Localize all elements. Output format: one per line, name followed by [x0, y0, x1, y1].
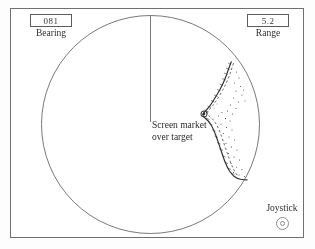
- marker-caption-line1: Screen market: [152, 120, 207, 132]
- bearing-readout: 081 Bearing: [30, 14, 72, 39]
- joystick-control[interactable]: Joystick: [258, 203, 306, 230]
- bearing-label: Bearing: [30, 29, 72, 39]
- joystick-label: Joystick: [258, 203, 306, 214]
- marker-caption: Screen market over target: [152, 120, 207, 143]
- marker-caption-line2: over target: [152, 132, 207, 144]
- range-value[interactable]: 5.2: [247, 14, 289, 27]
- radar-console-screenshot: 081 Bearing 5.2 Range: [0, 0, 315, 249]
- joystick-knob-icon[interactable]: [276, 217, 289, 230]
- range-label: Range: [247, 29, 289, 39]
- bearing-value[interactable]: 081: [30, 14, 72, 27]
- range-readout: 5.2 Range: [247, 14, 289, 39]
